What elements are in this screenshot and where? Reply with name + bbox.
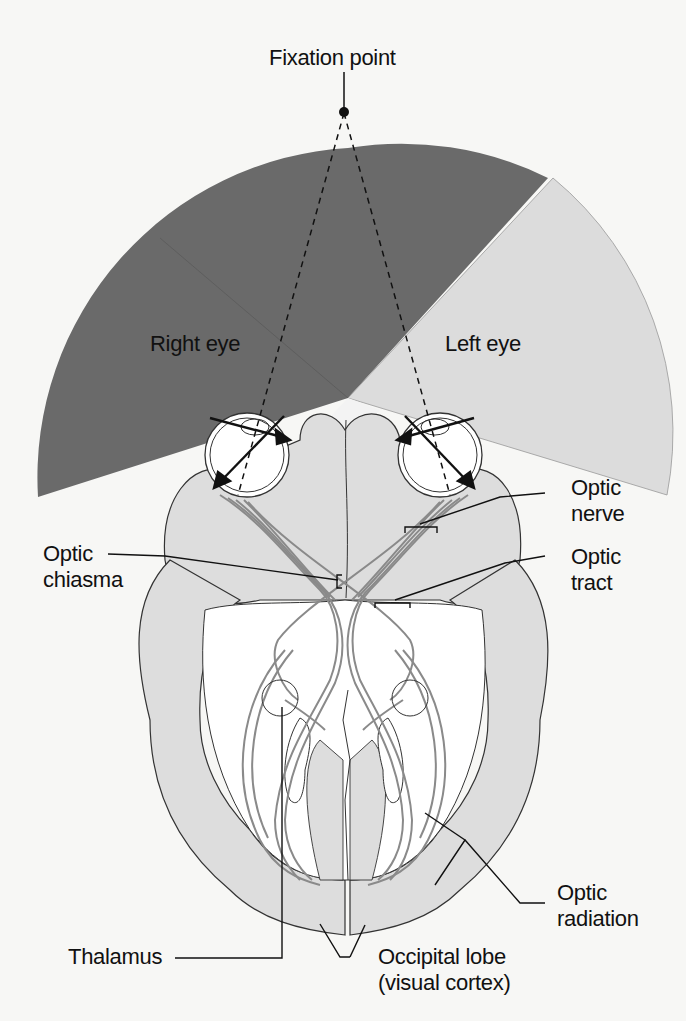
label-optic-nerve-line1: Optic — [571, 475, 625, 501]
label-left-eye: Left eye — [445, 331, 521, 357]
label-occipital-lobe-line2: (visual cortex) — [378, 970, 510, 996]
label-right-eye: Right eye — [150, 331, 240, 357]
label-optic-tract-line2: tract — [571, 570, 621, 596]
label-optic-tract: Optic tract — [571, 544, 621, 596]
label-fixation-point: Fixation point — [269, 45, 396, 71]
label-optic-chiasma-line1: Optic — [43, 541, 123, 567]
label-optic-radiation-line2: radiation — [557, 906, 639, 932]
label-optic-chiasma: Optic chiasma — [43, 541, 123, 593]
label-thalamus: Thalamus — [68, 944, 162, 970]
label-optic-nerve: Optic nerve — [571, 475, 625, 527]
label-optic-chiasma-line2: chiasma — [43, 567, 123, 593]
label-occipital-lobe: Occipital lobe (visual cortex) — [378, 944, 510, 996]
fixation-point-dot — [339, 107, 349, 117]
label-optic-tract-line1: Optic — [571, 544, 621, 570]
brain — [139, 414, 548, 935]
label-optic-nerve-line2: nerve — [571, 501, 625, 527]
label-optic-radiation: Optic radiation — [557, 880, 639, 932]
label-optic-radiation-line1: Optic — [557, 880, 639, 906]
label-occipital-lobe-line1: Occipital lobe — [378, 944, 510, 970]
